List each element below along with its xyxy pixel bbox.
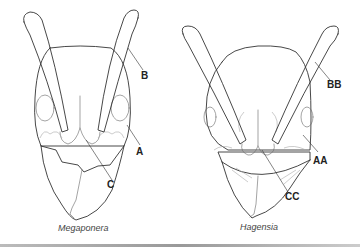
leader-line-bb: [315, 62, 330, 80]
caption-hagensia: Hagensia: [240, 222, 278, 232]
hagensia-mandible-teeth: [250, 176, 258, 217]
megaponera-left-eye: [36, 95, 54, 121]
hagensia-mandible-grooves: [232, 168, 300, 184]
megaponera-head: [24, 10, 139, 220]
caption-megaponera: Megaponera: [58, 223, 109, 233]
megaponera-mandible-teeth: [70, 170, 82, 218]
hagensia-frontal-lobes: [242, 110, 275, 155]
hagensia-left-antenna: [182, 26, 246, 144]
diagram-canvas: B A C Megaponera: [0, 0, 360, 247]
label-aa: AA: [313, 155, 327, 166]
label-c: C: [107, 179, 114, 190]
ant-head-comparison-figure: B A C Megaponera: [0, 0, 360, 247]
leader-line-a: [127, 125, 140, 145]
label-cc: CC: [285, 191, 299, 202]
label-bb: BB: [327, 79, 341, 90]
hagensia-mandible: [222, 160, 310, 218]
megaponera-left-antenna: [24, 12, 68, 132]
megaponera-right-antenna: [98, 10, 139, 132]
leader-line-b: [128, 48, 143, 70]
megaponera-antennal-sockets: [40, 132, 124, 138]
label-a: A: [136, 146, 143, 157]
label-b: B: [141, 70, 148, 81]
hagensia-head-capsule: [206, 46, 311, 150]
hagensia-head: [182, 26, 338, 218]
megaponera-right-eye: [111, 95, 129, 121]
megaponera-clypeus-edge: [41, 146, 124, 172]
